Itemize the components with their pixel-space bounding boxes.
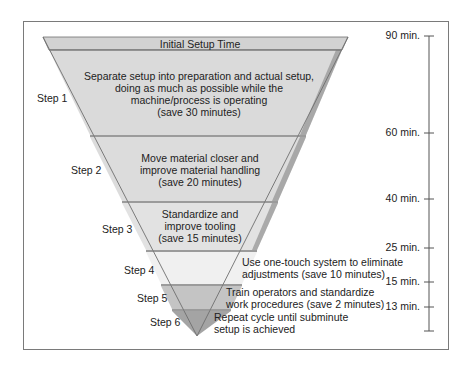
step-6-label: Step 6	[150, 316, 180, 328]
scale-tick-13: 13 min.	[360, 300, 420, 312]
step-2-description: Move material closer and improve materia…	[120, 152, 280, 188]
step-1-description: Separate setup into preparation and actu…	[64, 70, 334, 118]
scale-tick-25: 25 min.	[360, 241, 420, 253]
step-1-label: Step 1	[37, 92, 67, 104]
step-4-label: Step 4	[124, 264, 154, 276]
scale-tick-90: 90 min.	[360, 29, 420, 41]
scale-tick-40: 40 min.	[360, 192, 420, 204]
funnel-band-step-4	[146, 252, 257, 284]
scale-tick-60: 60 min.	[360, 126, 420, 138]
scale-tick-15: 15 min.	[360, 275, 420, 287]
time-scale	[424, 36, 434, 331]
step-6-description: Repeat cycle until subminute setup is ac…	[214, 311, 348, 335]
step-3-label: Step 3	[102, 223, 132, 235]
initial-setup-time-label: Initial Setup Time	[130, 38, 270, 50]
step-3-description: Standardize and improve tooling (save 15…	[140, 208, 260, 244]
step-5-label: Step 5	[137, 292, 167, 304]
step-2-label: Step 2	[71, 164, 101, 176]
